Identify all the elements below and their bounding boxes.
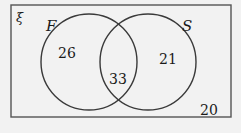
s-only-value: 21 (159, 51, 177, 67)
set-s-label: S (182, 17, 192, 35)
set-f-label: F (45, 17, 57, 35)
outside-value: 20 (200, 102, 218, 118)
venn-diagram: ξ F S 26 21 33 20 (0, 0, 241, 133)
universal-set-label: ξ (16, 10, 24, 25)
intersection-value: 33 (109, 71, 127, 87)
f-only-value: 26 (58, 45, 76, 61)
